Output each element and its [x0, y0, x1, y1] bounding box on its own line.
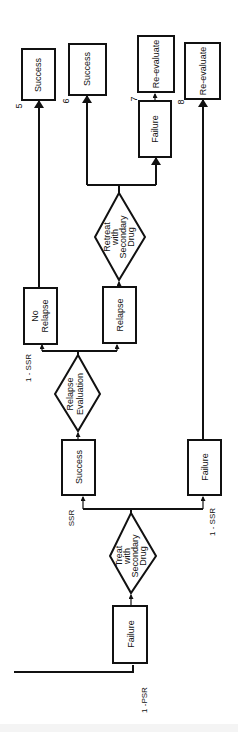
outcome-7-label: Re-evaluate: [151, 40, 161, 89]
outcome-8-number: 8: [176, 99, 186, 104]
failure-branch-label: Failure: [200, 453, 210, 481]
failure-branch-box: Failure: [188, 440, 221, 495]
no-relapse-line-2: Relapse: [40, 299, 50, 332]
outcome-5-number: 5: [14, 103, 24, 108]
ssr-branch-label: SSR: [67, 510, 76, 527]
start-failure-label: Failure: [126, 620, 136, 648]
no-relapse-box: No Relapse: [24, 288, 57, 344]
relapse-evaluation-decision: Relapse Evaluation: [55, 355, 100, 431]
relapse-box: Relapse: [103, 287, 136, 343]
outcome-7-number: 7: [129, 96, 139, 101]
retreat-split: [87, 185, 156, 193]
flowchart: Failure 1 -PSR Treat with Secondary Drug…: [0, 0, 238, 732]
outcome-7-failure-box: Failure: [139, 101, 171, 157]
outcome-7-reevaluate-box: Re-evaluate: [138, 36, 174, 92]
outcome-8-label: Re-evaluate: [198, 47, 208, 96]
retreat-line-4: Drug: [126, 227, 136, 247]
outcome-5-label: Success: [33, 57, 43, 92]
outcome-5-success-box: Success: [22, 49, 55, 100]
no-relapse-branch-label: 1 - SSR: [24, 354, 33, 382]
outcome-6-success-box: Success: [69, 44, 106, 95]
outcome-6-label: Success: [82, 51, 92, 86]
entry-connector: [14, 665, 133, 672]
start-failure-box: Failure: [113, 606, 147, 663]
relapse-split: [42, 351, 117, 355]
treat-line-4: Drug: [138, 546, 148, 566]
psr-branch-label: 1 -PSR: [140, 687, 149, 713]
outcome-8-reevaluate-box: Re-evaluate: [185, 43, 220, 99]
outcome-7-failure-label: Failure: [150, 115, 160, 143]
success-box: Success: [62, 440, 95, 495]
treat-split: [83, 509, 203, 513]
relapse-label: Relapse: [115, 298, 125, 331]
relapse-eval-line-2: Evaluation: [75, 373, 85, 415]
failure-ssr-branch-label: 1 - SSR: [208, 508, 217, 536]
page-bottom-edge: [0, 724, 238, 732]
no-relapse-line-1: No: [30, 310, 40, 322]
relapse-eval-line-1: Relapse: [65, 377, 75, 410]
treat-secondary-drug-decision: Treat with Secondary Drug: [110, 513, 156, 593]
outcome-6-number: 6: [61, 98, 71, 103]
retreat-secondary-drug-decision: Retreat with Secondary Drug: [95, 193, 145, 280]
success-label: Success: [74, 449, 84, 484]
